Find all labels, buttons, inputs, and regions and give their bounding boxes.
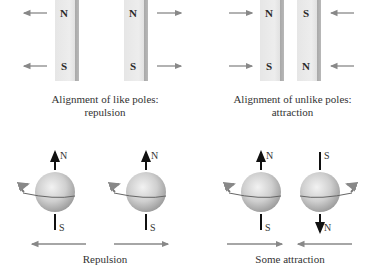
spin-arrow-icon	[347, 184, 353, 192]
pole-label: S	[59, 222, 65, 233]
spinning-sphere-left	[228, 152, 281, 230]
pole-label: N	[60, 150, 67, 161]
caption-repulsion: Repulsion	[50, 253, 160, 266]
spinning-sphere-left	[22, 152, 75, 230]
pole-label: N	[151, 150, 158, 161]
pole-label: S	[324, 150, 330, 161]
pole-label: S	[265, 222, 271, 233]
diagram-graphics	[0, 0, 375, 271]
force-arrows-unlike	[229, 13, 354, 66]
spin-arrow-icon	[228, 184, 234, 192]
pole-label: S	[150, 222, 156, 233]
force-arrows-like	[24, 13, 181, 66]
pole-label: N	[324, 222, 331, 233]
pole-label: N	[266, 150, 273, 161]
spinning-sphere-right	[300, 152, 353, 232]
spin-arrow-icon	[113, 184, 119, 192]
spinning-sphere-right	[113, 152, 166, 230]
caption-some-attraction: Some attraction	[235, 253, 345, 266]
spin-arrow-icon	[22, 184, 28, 192]
